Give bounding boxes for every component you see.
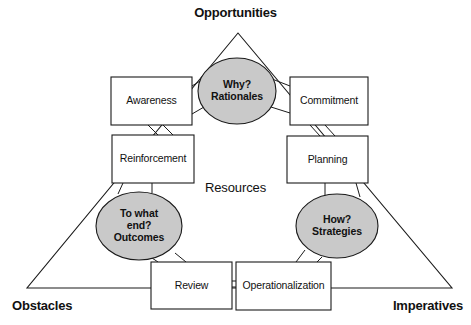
- diagram-vector-layer: [0, 0, 471, 325]
- corner-label-obstacles: Obstacles: [12, 298, 72, 313]
- box-operationalization[interactable]: [236, 262, 331, 310]
- box-commitment[interactable]: [290, 77, 368, 125]
- connector-strategies-operationalization-a: [296, 250, 305, 262]
- connector-commitment-planning-a: [310, 125, 320, 136]
- connector-awareness-reinforcement-b: [163, 125, 173, 135]
- ellipse-strategies[interactable]: [296, 194, 378, 258]
- diagram-canvas: Opportunities Obstacles Imperatives Reso…: [0, 0, 471, 325]
- box-planning[interactable]: [287, 136, 368, 183]
- connector-awareness-rationales-bottom: [192, 107, 204, 114]
- ellipse-outcomes[interactable]: [96, 192, 182, 260]
- connector-commitment-planning-b: [325, 125, 335, 136]
- center-label-resources: Resources: [0, 180, 471, 195]
- box-review[interactable]: [151, 262, 232, 309]
- corner-label-imperatives: Imperatives: [393, 298, 463, 313]
- connector-rationales-commitment-bottom: [271, 107, 290, 113]
- corner-label-opportunities: Opportunities: [0, 5, 471, 20]
- connector-outcomes-review-b: [175, 253, 186, 262]
- ellipse-rationales[interactable]: [198, 58, 276, 124]
- box-awareness[interactable]: [111, 77, 192, 125]
- connector-strategies-operationalization-b: [317, 257, 322, 262]
- box-reinforcement[interactable]: [112, 135, 194, 183]
- connector-awareness-reinforcement-a: [148, 125, 158, 135]
